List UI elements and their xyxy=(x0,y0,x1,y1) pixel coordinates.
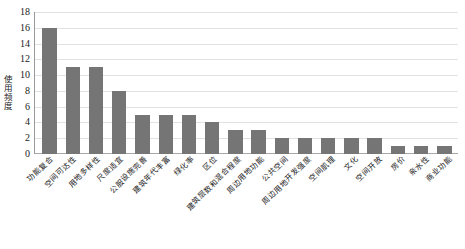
bar[interactable] xyxy=(391,146,405,154)
bar-slot xyxy=(270,12,293,154)
x-axis-tick-label: 区位 xyxy=(202,155,219,172)
y-axis-tick-label: 0 xyxy=(25,149,30,159)
bar[interactable] xyxy=(159,115,173,154)
bar[interactable] xyxy=(251,130,265,154)
bar-slot xyxy=(84,12,107,154)
y-axis-tick-label: 12 xyxy=(20,54,30,64)
bar[interactable] xyxy=(367,138,381,154)
bar-slot xyxy=(433,12,456,154)
bar-slot xyxy=(131,12,154,154)
plot-area xyxy=(34,12,458,154)
bar[interactable] xyxy=(275,138,289,154)
bar-slot xyxy=(386,12,409,154)
y-axis-tick-label: 14 xyxy=(20,39,30,49)
bar[interactable] xyxy=(42,28,56,154)
y-axis-tick-label: 6 xyxy=(25,102,30,112)
y-axis-tick-label: 16 xyxy=(20,23,30,33)
y-axis-tick-label: 18 xyxy=(20,7,30,17)
y-axis-title: 使用频度 xyxy=(0,58,14,128)
y-axis-tick-label: 4 xyxy=(25,117,30,127)
y-axis-tick-label: 10 xyxy=(20,70,30,80)
bar[interactable] xyxy=(321,138,335,154)
bar[interactable] xyxy=(437,146,451,154)
bar-slot xyxy=(224,12,247,154)
bar-slot xyxy=(247,12,270,154)
bar-series xyxy=(35,12,458,154)
bar-slot xyxy=(410,12,433,154)
y-axis-tick-label: 2 xyxy=(25,133,30,143)
bar-slot xyxy=(38,12,61,154)
bar[interactable] xyxy=(112,91,126,154)
bar[interactable] xyxy=(414,146,428,154)
bar-slot xyxy=(293,12,316,154)
bar-slot xyxy=(61,12,84,154)
y-axis-tick-label: 8 xyxy=(25,86,30,96)
bar-slot xyxy=(317,12,340,154)
bar[interactable] xyxy=(66,67,80,154)
bar-slot xyxy=(340,12,363,154)
x-axis-tick-label: 房价 xyxy=(390,155,407,172)
bar[interactable] xyxy=(344,138,358,154)
bar[interactable] xyxy=(298,138,312,154)
bar[interactable] xyxy=(228,130,242,154)
y-axis-tick-labels: 181614121086420 xyxy=(14,12,32,154)
bar[interactable] xyxy=(205,122,219,154)
bar[interactable] xyxy=(89,67,103,154)
bar[interactable] xyxy=(182,115,196,154)
x-axis-tick-label: 绿化率 xyxy=(173,155,196,178)
bar-slot xyxy=(201,12,224,154)
bar-slot xyxy=(108,12,131,154)
bar-slot xyxy=(363,12,386,154)
x-axis-category-labels: 功能复合空间可达性用地多样性尺度适宜公服设施完善建筑年代丰富绿化率区位建筑层数和… xyxy=(34,155,457,249)
bar-chart: 使用频度 181614121086420 功能复合空间可达性用地多样性尺度适宜公… xyxy=(0,0,465,249)
x-axis-tick-label: 文化 xyxy=(343,155,360,172)
bar-slot xyxy=(177,12,200,154)
bar[interactable] xyxy=(135,115,149,154)
bar-slot xyxy=(154,12,177,154)
